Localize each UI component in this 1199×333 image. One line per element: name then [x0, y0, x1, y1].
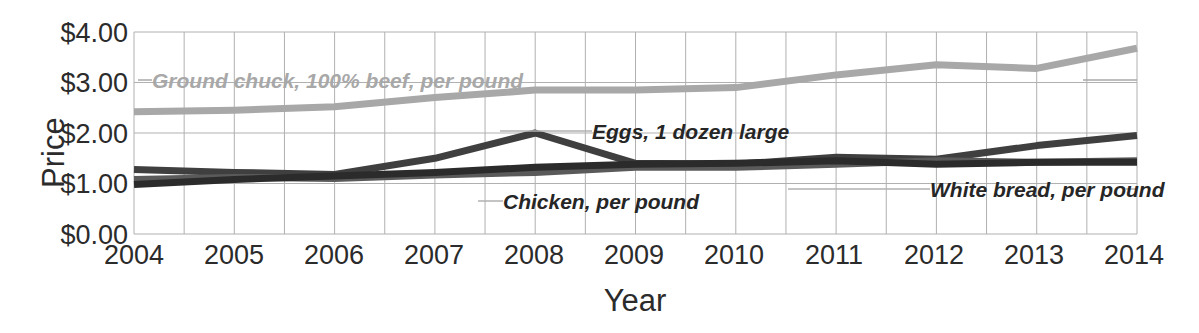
- annotation-ground-chuck: Ground chuck, 100% beef, per pound: [152, 69, 523, 93]
- annotation-white-bread: White bread, per pound: [930, 178, 1165, 202]
- annotation-chicken: Chicken, per pound: [503, 190, 699, 214]
- annotation-eggs: Eggs, 1 dozen large: [592, 120, 789, 144]
- plot-area: [0, 0, 1199, 333]
- price-line-chart: Price $4.00 $3.00 $2.00 $1.00 $0.00 2004…: [0, 0, 1199, 333]
